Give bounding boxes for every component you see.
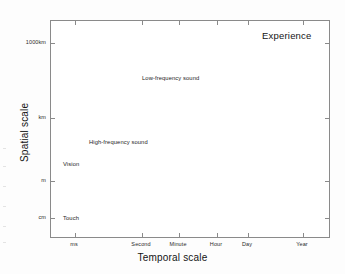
x-tick-label-ms: ms [70, 241, 78, 247]
scan-speckle [3, 148, 6, 149]
annotation-high-frequency-sound: High-frequency sound [89, 139, 148, 145]
x-tick-label-second: Second [131, 241, 150, 247]
y-axis-title: Spatial scale [19, 103, 30, 162]
x-tick-day [248, 233, 249, 237]
x-tick-minute [179, 233, 180, 237]
x-tick-second [142, 233, 143, 237]
panel-title: Experience [262, 30, 312, 41]
x-axis-title: Temporal scale [0, 252, 345, 263]
y-tick-label-1000km: 1000km [26, 39, 46, 45]
scan-speckle [3, 242, 6, 243]
y-tick-right-1000km [325, 43, 329, 44]
y-tick-right-km [325, 118, 329, 119]
x-tick-year [303, 233, 304, 237]
y-tick-km [51, 118, 55, 119]
x-tick-label-hour: Hour [210, 241, 222, 247]
x-tick-top-year [303, 21, 304, 25]
y-tick-label-m: m [41, 177, 46, 183]
y-tick-m [51, 181, 55, 182]
x-tick-top-hour [217, 21, 218, 25]
x-tick-ms [75, 233, 76, 237]
x-tick-hour [217, 233, 218, 237]
x-tick-top-day [248, 21, 249, 25]
y-tick-label-km: km [38, 114, 46, 120]
annotation-touch: Touch [63, 215, 79, 221]
plot-area: Experience Low-frequency sound High-freq… [50, 20, 330, 238]
x-tick-top-second [142, 21, 143, 25]
scan-speckle [3, 206, 6, 207]
x-tick-label-minute: Minute [169, 241, 186, 247]
y-tick-cm [51, 218, 55, 219]
figure-canvas: Spatial scale 1000km km m cm ms Second M… [0, 0, 345, 274]
y-tick-right-m [325, 181, 329, 182]
y-tick-1000km [51, 43, 55, 44]
annotation-low-frequency-sound: Low-frequency sound [142, 75, 199, 81]
x-tick-label-day: Day [242, 241, 252, 247]
scan-speckle [3, 186, 6, 187]
y-tick-right-cm [325, 218, 329, 219]
scan-speckle [3, 166, 6, 167]
x-tick-top-ms [75, 21, 76, 25]
x-tick-label-year: Year [296, 241, 308, 247]
annotation-vision: Vision [63, 161, 79, 167]
y-tick-label-cm: cm [38, 214, 46, 220]
scan-speckle [3, 226, 6, 227]
x-tick-top-minute [179, 21, 180, 25]
